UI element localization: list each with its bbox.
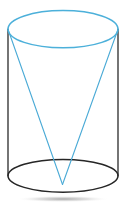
figure-canvas: Cone inscribed in a cylinder Line drawin…	[0, 0, 128, 209]
ground-shadow	[17, 196, 109, 202]
figure-background	[0, 0, 128, 209]
cone-in-cylinder-figure: Cone inscribed in a cylinder Line drawin…	[0, 0, 128, 209]
